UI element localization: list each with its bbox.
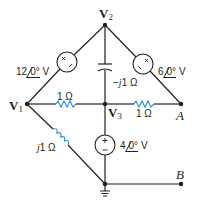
source-center-label: 40° V — [120, 141, 148, 152]
voltage-source-center-icon — [95, 135, 115, 155]
inductor-label: j1 Ω — [37, 143, 56, 153]
capacitor-label: −j1 Ω — [113, 78, 137, 88]
source-left-label: 120° V — [16, 67, 49, 78]
node-v3-label: V3 — [108, 106, 122, 121]
source-right-label: 60° V — [158, 67, 186, 78]
resistor-right-label: 1 Ω — [136, 109, 152, 119]
wire-v1-inductor — [27, 104, 53, 129]
node-v2-label: V2 — [99, 7, 113, 22]
node-v2-dot — [103, 23, 107, 27]
voltage-source-left-icon — [57, 52, 77, 72]
node-ground-dot — [103, 182, 107, 186]
resistor-right-icon — [134, 101, 154, 107]
node-b-dot — [179, 182, 183, 186]
circuit-diagram: V2 V1 V3 A B 120° V 60° V 40° V −j1 Ω 1 … — [0, 0, 199, 211]
resistor-left-label: 1 Ω — [57, 92, 73, 102]
terminal-a-label: A — [176, 109, 184, 122]
terminal-b-label: B — [176, 168, 184, 181]
capacitor-icon — [98, 64, 112, 71]
node-v1-label: V1 — [9, 99, 23, 114]
wire-v2-right-source — [105, 25, 136, 57]
circuit-schematic — [0, 0, 199, 211]
node-v1-dot — [25, 102, 29, 106]
node-a-dot — [179, 102, 183, 106]
ground-icon — [100, 191, 110, 196]
voltage-source-right-icon — [133, 54, 153, 74]
wire-v2-left-source — [74, 25, 105, 55]
node-v3-dot — [103, 102, 107, 106]
